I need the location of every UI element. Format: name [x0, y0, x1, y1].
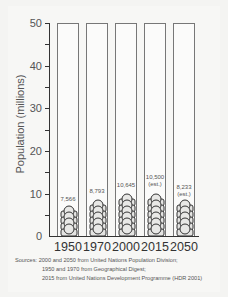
y-tick-label: 50 [18, 18, 42, 29]
value-label-2015: 10,500 [135, 174, 175, 181]
y-tick [45, 194, 49, 195]
y-tick-minor [45, 130, 49, 131]
column-2015 [144, 23, 166, 236]
person-icon-stack [146, 192, 166, 236]
y-tick [45, 151, 49, 152]
value-label-1950: 7,566 [48, 196, 88, 203]
person-stack [146, 192, 166, 236]
person-stack [117, 192, 137, 236]
y-tick-label: 30 [18, 103, 42, 114]
column-1970 [86, 23, 108, 236]
person-icon-stack [175, 198, 195, 236]
person-stack [88, 198, 108, 236]
y-tick-label: 0 [18, 231, 42, 242]
value-note-2050: (est.) [164, 191, 204, 198]
sources-line-1: Sources: 2000 and 2050 from United Natio… [15, 257, 178, 263]
person-icon-stack [117, 192, 137, 236]
y-tick-label: 10 [18, 189, 42, 200]
x-axis-line [49, 236, 199, 237]
person-icon-stack [59, 204, 79, 236]
y-tick-minor [45, 215, 49, 216]
y-tick [45, 23, 49, 24]
person-icon-stack [88, 198, 108, 236]
y-tick [45, 108, 49, 109]
x-label-1950: 1950 [53, 240, 83, 254]
value-label-1970: 8,793 [77, 188, 117, 195]
y-axis-line [49, 23, 50, 237]
y-axis-label: Population (millions) [14, 64, 26, 184]
y-tick-minor [45, 172, 49, 173]
person-stack [175, 198, 195, 236]
y-tick-label: 40 [18, 61, 42, 72]
y-tick-label: 20 [18, 146, 42, 157]
x-label-1970: 1970 [82, 240, 112, 254]
x-label-2050: 2050 [169, 240, 199, 254]
y-tick-minor [45, 44, 49, 45]
sources-line-3: 2015 from United Nations Development Pro… [42, 275, 202, 281]
person-stack [59, 204, 79, 236]
column-2000 [115, 23, 137, 236]
x-label-2000: 2000 [111, 240, 141, 254]
y-tick-minor [45, 87, 49, 88]
y-tick [45, 66, 49, 67]
column-1950 [57, 23, 79, 236]
column-2050 [173, 23, 195, 236]
x-label-2015: 2015 [140, 240, 170, 254]
value-label-2050: 8,233 [164, 184, 204, 191]
sources-line-2: 1950 and 1970 from Geographical Digest; [42, 266, 146, 272]
